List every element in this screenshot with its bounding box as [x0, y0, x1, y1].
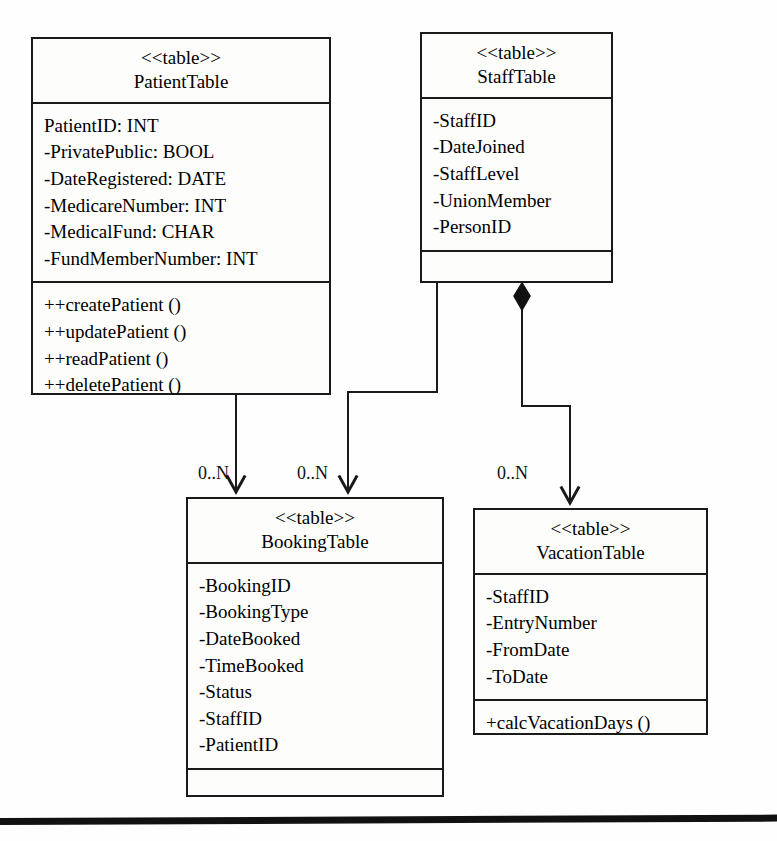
- attribute-item: -ToDate: [486, 664, 706, 691]
- attributes-compartment-patient-table: PatientID: INT -PrivatePublic: BOOL -Dat…: [33, 104, 329, 284]
- composition-diamond: [514, 283, 530, 310]
- stereotype-label: <<table>>: [192, 506, 438, 530]
- class-header-vacation-table: <<table>> VacationTable: [475, 510, 706, 575]
- class-box-booking-table[interactable]: <<table>> BookingTable -BookingID -Booki…: [186, 497, 444, 797]
- attribute-list: -StaffID -DateJoined -StaffLevel -UnionM…: [433, 108, 611, 241]
- class-name-label: PatientTable: [37, 70, 325, 94]
- attribute-item: PatientID: INT: [44, 113, 329, 140]
- attribute-item: -DateBooked: [199, 626, 442, 653]
- method-item: ++deletePatient (): [44, 372, 329, 399]
- attribute-item: -BookingID: [199, 573, 442, 600]
- page-bottom-rule: [0, 815, 777, 825]
- attribute-item: -StaffID: [433, 108, 611, 135]
- stereotype-label: <<table>>: [37, 46, 325, 70]
- attribute-list: -BookingID -BookingType -DateBooked -Tim…: [199, 573, 442, 759]
- attribute-item: -MedicareNumber: INT: [44, 193, 329, 220]
- methods-compartment-patient-table: ++createPatient () ++updatePatient () ++…: [33, 283, 329, 407]
- attribute-item: -FundMemberNumber: INT: [44, 246, 329, 273]
- class-name-label: BookingTable: [192, 530, 438, 554]
- attribute-item: -PrivatePublic: BOOL: [44, 139, 329, 166]
- attribute-item: -TimeBooked: [199, 653, 442, 680]
- attribute-item: -PersonID: [433, 214, 611, 241]
- attribute-item: -PatientID: [199, 732, 442, 759]
- methods-compartment-staff-table: [422, 252, 611, 278]
- attribute-item: -StaffID: [199, 706, 442, 733]
- uml-class-diagram-canvas: 0..N 0..N 0..N <<table>> PatientTable Pa…: [0, 0, 777, 841]
- class-box-staff-table[interactable]: <<table>> StaffTable -StaffID -DateJoine…: [420, 32, 613, 283]
- attribute-item: -BookingType: [199, 599, 442, 626]
- attributes-compartment-booking-table: -BookingID -BookingType -DateBooked -Tim…: [188, 564, 442, 770]
- attribute-item: -FromDate: [486, 637, 706, 664]
- attribute-item: -EntryNumber: [486, 610, 706, 637]
- attribute-item: -StaffID: [486, 584, 706, 611]
- method-item: ++updatePatient (): [44, 319, 329, 346]
- method-item: +calcVacationDays (): [486, 710, 706, 737]
- multiplicity-staff-booking: 0..N: [297, 463, 328, 484]
- methods-compartment-booking-table: [188, 770, 442, 796]
- attribute-item: -StaffLevel: [433, 161, 611, 188]
- class-box-patient-table[interactable]: <<table>> PatientTable PatientID: INT -P…: [31, 37, 331, 395]
- attribute-item: -Status: [199, 679, 442, 706]
- attributes-compartment-vacation-table: -StaffID -EntryNumber -FromDate -ToDate: [475, 575, 706, 701]
- method-list: ++createPatient () ++updatePatient () ++…: [44, 292, 329, 398]
- attribute-item: -UnionMember: [433, 188, 611, 215]
- class-header-booking-table: <<table>> BookingTable: [188, 499, 442, 564]
- attribute-item: -DateJoined: [433, 134, 611, 161]
- class-header-staff-table: <<table>> StaffTable: [422, 34, 611, 99]
- method-item: ++createPatient (): [44, 292, 329, 319]
- class-box-vacation-table[interactable]: <<table>> VacationTable -StaffID -EntryN…: [473, 508, 708, 735]
- stereotype-label: <<table>>: [426, 41, 607, 65]
- class-name-label: StaffTable: [426, 65, 607, 89]
- methods-compartment-vacation-table: +calcVacationDays (): [475, 701, 706, 746]
- attribute-list: -StaffID -EntryNumber -FromDate -ToDate: [486, 584, 706, 690]
- multiplicity-patient-booking: 0..N: [198, 463, 229, 484]
- stereotype-label: <<table>>: [479, 517, 702, 541]
- class-header-patient-table: <<table>> PatientTable: [33, 39, 329, 104]
- method-item: ++readPatient (): [44, 346, 329, 373]
- method-list: +calcVacationDays (): [486, 710, 706, 737]
- attribute-list: PatientID: INT -PrivatePublic: BOOL -Dat…: [44, 113, 329, 273]
- attribute-item: -MedicalFund: CHAR: [44, 219, 329, 246]
- multiplicity-staff-vacation: 0..N: [497, 463, 528, 484]
- attributes-compartment-staff-table: -StaffID -DateJoined -StaffLevel -UnionM…: [422, 99, 611, 252]
- attribute-item: -DateRegistered: DATE: [44, 166, 329, 193]
- class-name-label: VacationTable: [479, 541, 702, 565]
- edge-staff-booking: [348, 283, 437, 492]
